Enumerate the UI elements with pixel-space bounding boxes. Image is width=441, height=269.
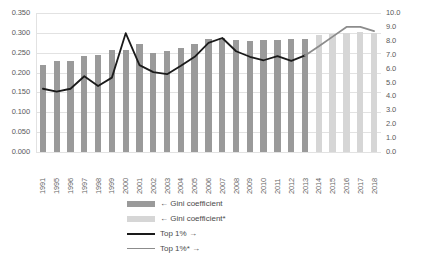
legend-label: Top 1%* → [160,244,200,253]
legend-marker [127,201,155,207]
left-axis-tick-label: 0.050 [0,127,30,136]
x-axis-tick-label: 2005 [190,154,199,194]
x-axis-tick-label: 2010 [259,154,268,194]
legend-swatch-bar-icon [126,211,156,226]
x-axis-label-slot: 2013 [298,154,312,194]
x-axis-tick-label: 1991 [38,154,47,194]
x-axis-label-slot: 2003 [160,154,174,194]
left-axis-tick-label: 0.000 [0,147,30,156]
gridline [36,152,381,153]
x-axis-tick-label: 1998 [94,154,103,194]
x-axis-label-slot: 2018 [367,154,381,194]
chart-legend: ← Gini coefficient← Gini coefficient*Top… [126,196,346,256]
x-axis-label-slot: 2015 [326,154,340,194]
right-axis-tick-label: 8.0 [386,36,420,45]
line-top1 [43,33,305,91]
left-axis-tick-label: 0.200 [0,68,30,77]
x-axis-tick-label: 2006 [204,154,213,194]
x-axis-label-slot: 1998 [91,154,105,194]
x-axis-tick-label: 2016 [342,154,351,194]
legend-item[interactable]: ← Gini coefficient* [126,211,346,226]
right-axis-tick-label: 0.0 [386,147,420,156]
left-axis-tick-label: 0.350 [0,8,30,17]
legend-item[interactable]: Top 1%* → [126,241,346,256]
x-axis-label-slot: 2001 [133,154,147,194]
x-axis-tick-label: 2000 [121,154,130,194]
right-axis-tick-label: 2.0 [386,119,420,128]
x-axis-tick-label: 2004 [176,154,185,194]
x-axis-label-slot: 2004 [174,154,188,194]
chart-container: 0.0000.0500.1000.1500.2000.2500.3000.350… [0,0,441,269]
x-axis-tick-label: 2001 [135,154,144,194]
x-axis-label-slot: 2014 [312,154,326,194]
x-axis-tick-label: 1995 [52,154,61,194]
legend-label: ← Gini coefficient [160,199,223,208]
legend-item[interactable]: ← Gini coefficient [126,196,346,211]
left-axis-tick-label: 0.150 [0,87,30,96]
legend-marker [127,233,155,235]
x-axis-tick-label: 2003 [163,154,172,194]
x-axis-tick-label: 1999 [107,154,116,194]
x-axis-tick-label: 2009 [245,154,254,194]
legend-marker [127,216,155,222]
x-axis-tick-label: 2011 [273,154,282,194]
x-axis-label-slot: 2011 [271,154,285,194]
right-axis-tick-label: 10.0 [386,8,420,17]
right-axis-tick-label: 9.0 [386,22,420,31]
x-axis-label-slot: 2008 [229,154,243,194]
right-axis-tick-label: 5.0 [386,78,420,87]
x-axis-tick-label: 2008 [232,154,241,194]
legend-swatch-line-icon [126,241,156,256]
right-axis-tick-label: 4.0 [386,91,420,100]
right-axis-tick-label: 3.0 [386,105,420,114]
left-axis-tick-label: 0.100 [0,107,30,116]
x-axis-label-slot: 2005 [188,154,202,194]
x-axis-label-slot: 2009 [243,154,257,194]
x-axis-tick-label: 2014 [314,154,323,194]
right-axis-tick-label: 7.0 [386,50,420,59]
x-axis-tick-label: 2018 [370,154,379,194]
x-axis-label-slot: 2010 [257,154,271,194]
line-top1_star [305,27,374,55]
x-axis-label-slot: 1999 [105,154,119,194]
x-axis-label-group: 1991199519961997199819992000200120022003… [36,154,381,194]
x-axis-tick-label: 2012 [287,154,296,194]
legend-label: Top 1% → [160,229,197,238]
right-axis-tick-label: 6.0 [386,64,420,73]
x-axis-label-slot: 2016 [340,154,354,194]
legend-swatch-line-icon [126,226,156,241]
right-axis-tick-label: 1.0 [386,133,420,142]
x-axis-label-slot: 2007 [215,154,229,194]
left-axis-tick-label: 0.250 [0,48,30,57]
x-axis-tick-label: 2017 [356,154,365,194]
x-axis-label-slot: 2006 [202,154,216,194]
left-axis-tick-label: 0.300 [0,28,30,37]
x-axis-label-slot: 2012 [284,154,298,194]
line-series-layer [36,13,381,152]
x-axis-tick-label: 2015 [328,154,337,194]
x-axis-tick-label: 2013 [301,154,310,194]
legend-item[interactable]: Top 1% → [126,226,346,241]
legend-label: ← Gini coefficient* [160,214,226,223]
x-axis-label-slot: 1991 [36,154,50,194]
x-axis-label-slot: 1997 [77,154,91,194]
x-axis-label-slot: 2000 [119,154,133,194]
legend-swatch-bar-icon [126,196,156,211]
x-axis-label-slot: 1995 [50,154,64,194]
x-axis-label-slot: 2002 [146,154,160,194]
x-axis-tick-label: 1996 [66,154,75,194]
x-axis-tick-label: 2002 [149,154,158,194]
x-axis-label-slot: 1996 [64,154,78,194]
x-axis-tick-label: 2007 [218,154,227,194]
legend-marker [127,248,155,249]
x-axis-tick-label: 1997 [80,154,89,194]
x-axis-label-slot: 2017 [353,154,367,194]
